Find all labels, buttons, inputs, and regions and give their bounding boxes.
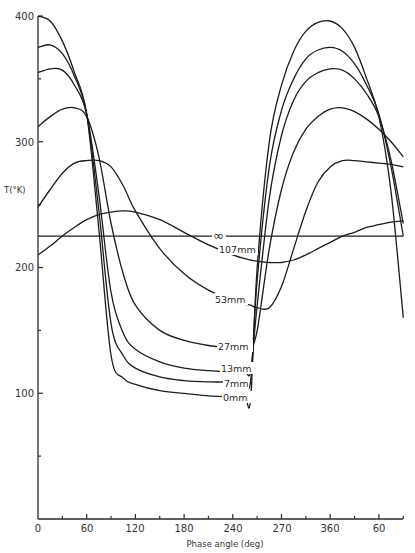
x-tick-270: 270 [272, 523, 291, 534]
x-tick-60b: 60 [373, 523, 386, 534]
y-tick-labels: 400 300 200 100 [15, 11, 34, 399]
y-tick-200: 200 [15, 262, 34, 273]
label-27mm: 27mm [218, 341, 249, 352]
x-tick-240: 240 [223, 523, 242, 534]
label-53mm: 53mm [215, 294, 246, 305]
x-tick-labels: 0 60 120 180 240 270 360 60 [35, 523, 386, 534]
y-tick-100: 100 [15, 388, 34, 399]
axis-ticks [38, 16, 403, 519]
label-13mm: 13mm [221, 363, 252, 374]
x-tick-0: 0 [35, 523, 41, 534]
temperature-phase-chart: 400 300 200 100 0 60 120 180 240 270 360… [0, 0, 415, 553]
x-tick-120: 120 [125, 523, 144, 534]
y-tick-300: 300 [15, 137, 34, 148]
y-tick-400: 400 [15, 11, 34, 22]
label-0mm: 0mm [223, 392, 248, 403]
x-tick-360: 360 [320, 523, 339, 534]
label-107mm: 107mm [219, 244, 256, 255]
label-7mm: 7mm [224, 378, 249, 389]
label-infinity: ∞ [213, 228, 224, 243]
x-tick-180: 180 [174, 523, 193, 534]
x-axis-title: Phase angle (deg) [186, 539, 263, 549]
y-axis-title: T(°K) [3, 185, 26, 195]
curve-13mm [38, 68, 403, 376]
axes [38, 16, 403, 519]
x-tick-60: 60 [81, 523, 94, 534]
